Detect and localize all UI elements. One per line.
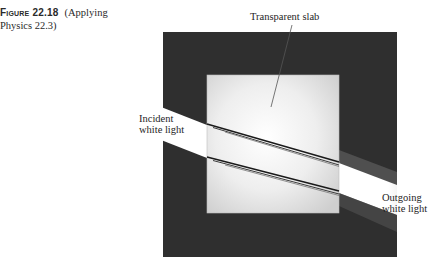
outgoing-light-label: Outgoing white light (382, 192, 427, 214)
slab-refraction-diagram (0, 0, 432, 276)
transparent-slab-label: Transparent slab (250, 11, 319, 22)
outgoing-label-line1: Outgoing (382, 192, 427, 203)
incident-label-line2: white light (139, 124, 184, 135)
transparent-slab (207, 75, 339, 213)
incident-light-label: Incident white light (139, 113, 184, 135)
outgoing-label-line2: white light (382, 203, 427, 214)
incident-label-line1: Incident (139, 113, 184, 124)
